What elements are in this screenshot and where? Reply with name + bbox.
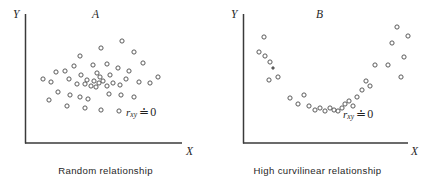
panel-a-scatter-markers: [41, 39, 160, 113]
panel-a-correlation-note: rxy≐0: [126, 106, 156, 119]
panel-b-letter: B: [316, 9, 323, 21]
panel-a-letter: A: [92, 9, 99, 21]
panel-a-y-axis-label: Y: [13, 9, 19, 21]
panel-b-corr-relation: ≐: [354, 108, 367, 120]
panel-b-x-axis-label: X: [411, 146, 418, 158]
panel-b-corr-value: 0: [367, 107, 373, 121]
panel-b-curvilinear-relationship: Y X B rxy≐0 High curvilinear relationshi…: [212, 0, 423, 182]
panel-a-x-axis-label: X: [186, 146, 193, 158]
panel-b-scatter-markers: [257, 25, 410, 113]
panel-a-plot: [0, 0, 211, 182]
figure-two-scatterplots: Y X A rxy≐0 Random relationship: [0, 0, 423, 182]
panel-b-caption: High curvilinear relationship: [212, 166, 423, 176]
panel-a-caption: Random relationship: [0, 166, 211, 176]
panel-a-corr-relation: ≐: [137, 106, 150, 118]
panel-b-y-axis-label: Y: [231, 9, 237, 21]
panel-a-corr-value: 0: [150, 105, 156, 119]
panel-b-correlation-note: rxy≐0: [343, 108, 373, 121]
panel-a-random-relationship: Y X A rxy≐0 Random relationship: [0, 0, 211, 182]
panel-b-plot: [212, 0, 423, 182]
